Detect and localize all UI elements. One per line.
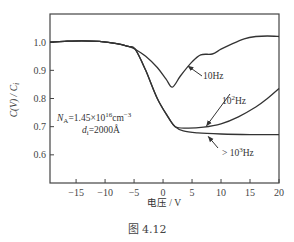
figure-caption: 图 4.12 bbox=[0, 220, 294, 236]
cv-chart: −15−10−505101520 0.60.70.80.91.0 C(V) / … bbox=[0, 0, 294, 242]
y-axis-ticks: 0.60.70.80.91.0 bbox=[34, 37, 55, 161]
y-axis-label: C(V) / Ci bbox=[9, 83, 21, 117]
y-tick-label: 1.0 bbox=[34, 37, 47, 48]
y-tick-label: 0.6 bbox=[34, 149, 47, 160]
arrow-icon bbox=[208, 137, 218, 148]
series-10hz bbox=[50, 36, 279, 87]
x-tick-label: 5 bbox=[190, 187, 195, 198]
x-tick-label: 0 bbox=[161, 187, 166, 198]
y-tick-label: 0.8 bbox=[34, 93, 47, 104]
annotation-10hz: 10Hz bbox=[203, 71, 224, 81]
annotation-100hz: 102Hz bbox=[222, 94, 246, 106]
x-tick-label: 10 bbox=[216, 187, 226, 198]
x-axis-label: 电压 / V bbox=[147, 197, 181, 208]
x-tick-label: −10 bbox=[97, 187, 113, 198]
y-tick-label: 0.7 bbox=[34, 121, 47, 132]
annotation-oxide-thickness: di=2000Å bbox=[82, 124, 120, 137]
x-tick-label: 15 bbox=[245, 187, 255, 198]
x-tick-label: −5 bbox=[129, 187, 140, 198]
y-tick-label: 0.9 bbox=[34, 65, 47, 76]
annotation-1khz: > 103Hz bbox=[222, 146, 254, 158]
x-tick-label: 20 bbox=[274, 187, 284, 198]
annotation-doping: NA=1.45×1016cm−3 bbox=[56, 111, 132, 125]
x-axis-ticks: −15−10−505101520 bbox=[68, 179, 284, 198]
x-tick-label: −15 bbox=[68, 187, 84, 198]
arrow-icon bbox=[188, 66, 202, 76]
